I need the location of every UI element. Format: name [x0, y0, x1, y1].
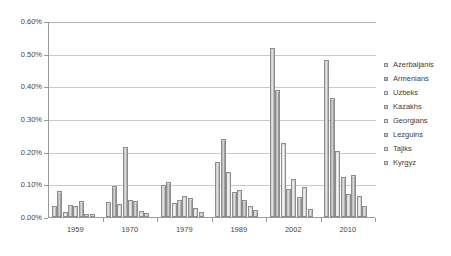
bar	[199, 213, 204, 217]
bar	[106, 203, 111, 217]
bar-cap	[166, 182, 171, 184]
legend-label: Tajiks	[393, 145, 412, 153]
bar-cap	[199, 212, 204, 214]
x-axis-tick-label: 1989	[219, 226, 259, 234]
y-axis-tick-label: 0.10%	[0, 181, 42, 189]
bar-group	[322, 22, 377, 217]
bar-cap	[182, 196, 187, 198]
bar	[335, 152, 340, 217]
x-axis-tick-label: 2010	[328, 226, 368, 234]
x-axis-tick-label: 1959	[55, 226, 95, 234]
x-axis-tick-mark	[157, 218, 158, 222]
bar-cap	[188, 198, 193, 200]
y-axis-tick-label: 0.60%	[0, 18, 42, 26]
bar-cap	[291, 179, 296, 181]
legend-item[interactable]: Kyrgyz	[384, 156, 451, 170]
bar	[117, 205, 122, 217]
legend-swatch-icon	[384, 133, 388, 137]
x-axis-tick-label: 2002	[273, 226, 313, 234]
bar-cap	[308, 209, 313, 211]
bar-cap	[68, 205, 73, 207]
legend-swatch-icon	[384, 91, 388, 95]
bar-cap	[275, 90, 280, 92]
plot-area	[48, 22, 375, 218]
legend-label: Azerbaijanis	[393, 61, 434, 69]
legend-swatch-icon	[384, 77, 388, 81]
bar-cap	[253, 210, 258, 212]
legend-item[interactable]: Azerbaijanis	[384, 58, 451, 72]
bar	[57, 192, 62, 217]
bar-cap	[139, 211, 144, 213]
legend-item[interactable]: Armenians	[384, 72, 451, 86]
bar-cap	[106, 202, 111, 204]
bar	[357, 197, 362, 217]
y-axis-tick-label: 0.40%	[0, 83, 42, 91]
legend-item[interactable]: Tajiks	[384, 142, 451, 156]
bar	[79, 202, 84, 217]
bar-group	[49, 22, 104, 217]
bar	[68, 206, 73, 217]
bar-cap	[242, 200, 247, 202]
bar	[128, 201, 133, 217]
bar-cap	[193, 208, 198, 210]
bar	[275, 91, 280, 217]
bar-cap	[346, 194, 351, 196]
bar	[351, 176, 356, 217]
legend-swatch-icon	[384, 147, 388, 151]
bar-cap	[177, 200, 182, 202]
legend-item[interactable]: Uzbeks	[384, 86, 451, 100]
bar-cap	[330, 98, 335, 100]
bar-cap	[161, 185, 166, 187]
bar	[52, 207, 57, 217]
bar	[144, 214, 149, 217]
bar-cap	[302, 187, 307, 189]
bar	[166, 183, 171, 217]
bar	[177, 201, 182, 217]
bar	[172, 204, 177, 217]
bar	[341, 178, 346, 217]
bar	[242, 201, 247, 217]
bar-chart: 0.00%0.10%0.20%0.30%0.40%0.50%0.60% 1959…	[0, 0, 451, 256]
bar	[73, 207, 78, 217]
bar	[286, 190, 291, 217]
bar	[221, 140, 226, 217]
bar	[123, 148, 128, 217]
bar-cap	[133, 201, 138, 203]
legend-item[interactable]: Kazakhs	[384, 100, 451, 114]
bar-cap	[335, 151, 340, 153]
bar-group	[104, 22, 159, 217]
bar-cap	[297, 197, 302, 199]
bar-cap	[324, 60, 329, 62]
legend-swatch-icon	[384, 105, 388, 109]
x-axis-tick-mark	[375, 218, 376, 222]
y-axis-tick-label: 0.00%	[0, 214, 42, 222]
x-axis-tick-mark	[321, 218, 322, 222]
bar	[346, 195, 351, 217]
bar-cap	[144, 213, 149, 215]
x-axis-tick-mark	[103, 218, 104, 222]
bar	[193, 209, 198, 217]
x-axis-tick-label: 1970	[110, 226, 150, 234]
bar-cap	[237, 190, 242, 192]
x-axis-tick-mark	[266, 218, 267, 222]
bar	[237, 191, 242, 217]
bar-cap	[52, 206, 57, 208]
bar-cap	[281, 143, 286, 145]
legend-label: Uzbeks	[393, 89, 418, 97]
y-axis-tick-label: 0.30%	[0, 116, 42, 124]
bar-cap	[117, 204, 122, 206]
bar-cap	[232, 192, 237, 194]
legend-item[interactable]: Georgians	[384, 114, 451, 128]
bar	[270, 49, 275, 217]
bar-cap	[123, 147, 128, 149]
bar	[308, 210, 313, 218]
legend-item[interactable]: Lezguins	[384, 128, 451, 142]
bar-cap	[215, 162, 220, 164]
bar	[248, 207, 253, 217]
bar	[182, 197, 187, 217]
bar	[161, 186, 166, 217]
bar-cap	[79, 201, 84, 203]
bar-cap	[57, 191, 62, 193]
bar	[215, 163, 220, 217]
legend-label: Georgians	[393, 117, 428, 125]
